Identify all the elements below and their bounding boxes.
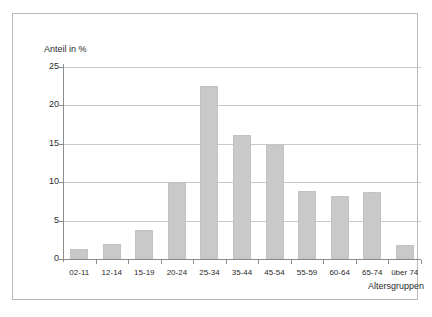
x-axis-tick-mark (128, 260, 129, 264)
x-axis-tick-mark (291, 260, 292, 264)
y-axis-tick-label: 10 (37, 177, 59, 186)
x-axis-tick-label: 45-54 (258, 268, 291, 278)
chart-frame: Anteil in % 0510152025 02-1112-1415-1920… (12, 13, 418, 300)
x-axis-tick-label: 65-74 (356, 268, 389, 278)
bar (331, 196, 349, 259)
bar (363, 192, 381, 259)
x-axis-tick-label: 25-34 (193, 268, 226, 278)
y-axis-tick-mark (59, 144, 63, 145)
bar (168, 182, 186, 259)
chart-figure: Anteil in % 0510152025 02-1112-1415-1920… (0, 0, 432, 317)
x-axis-tick-label: 60-64 (323, 268, 356, 278)
x-axis-title: Altersgruppen (368, 281, 424, 291)
x-axis-tick-mark (161, 260, 162, 264)
x-axis-tick-label: über 74 (388, 268, 421, 278)
bar (298, 191, 316, 259)
y-axis-tick-mark (59, 221, 63, 222)
plot-area (63, 67, 421, 259)
x-axis-tick-mark (388, 260, 389, 264)
x-axis-tick-label: 55-59 (291, 268, 324, 278)
bar (233, 135, 251, 259)
bar (396, 245, 414, 259)
y-axis-tick-mark (59, 182, 63, 183)
x-axis-tick-mark (421, 260, 422, 264)
bar (135, 230, 153, 259)
y-axis-tick-label: 0 (37, 254, 59, 263)
y-axis-tick-label: 25 (37, 62, 59, 71)
y-axis-tick-mark (59, 105, 63, 106)
x-axis-tick-mark (226, 260, 227, 264)
gridline (63, 105, 421, 106)
x-axis-tick-mark (258, 260, 259, 264)
y-axis-tick-label: 5 (37, 216, 59, 225)
bar (266, 145, 284, 259)
x-axis-tick-mark (356, 260, 357, 264)
x-axis-tick-label: 20-24 (161, 268, 194, 278)
x-axis-tick-mark (323, 260, 324, 264)
x-axis-tick-label: 15-19 (128, 268, 161, 278)
y-axis-tick-mark (59, 67, 63, 68)
bar (200, 86, 218, 259)
x-axis-tick-label: 35-44 (226, 268, 259, 278)
x-axis-tick-label: 12-14 (96, 268, 129, 278)
y-axis-tick-labels: 0510152025 (35, 67, 59, 259)
y-axis-title: Anteil in % (44, 44, 87, 54)
x-axis-tick-labels: 02-1112-1415-1920-2425-3435-4445-5455-59… (63, 268, 421, 280)
x-axis-tick-mark (96, 260, 97, 264)
x-axis-tick-mark (193, 260, 194, 264)
bar (70, 249, 88, 259)
x-axis-tick-label: 02-11 (63, 268, 96, 278)
x-axis-tick-marks (63, 260, 421, 265)
y-axis-tick-label: 15 (37, 139, 59, 148)
gridline (63, 67, 421, 68)
y-axis-tick-label: 20 (37, 100, 59, 109)
bar (103, 244, 121, 259)
y-axis-line (63, 64, 64, 262)
